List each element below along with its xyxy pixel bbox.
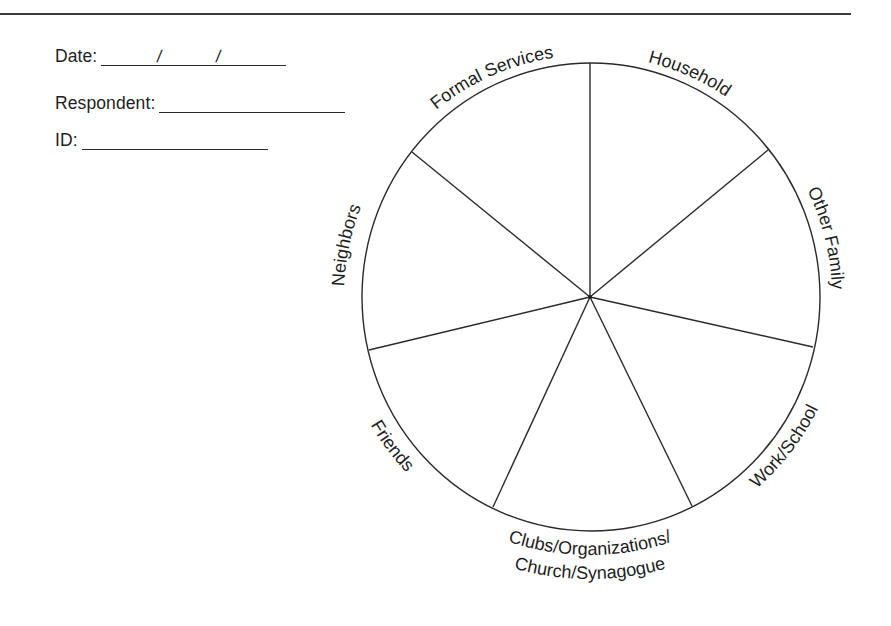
wheel-sector-regions [363, 63, 818, 530]
label-neighbors: Neighbors [328, 201, 365, 287]
support-network-wheel: Formal Services Household Other Family W… [0, 0, 891, 626]
